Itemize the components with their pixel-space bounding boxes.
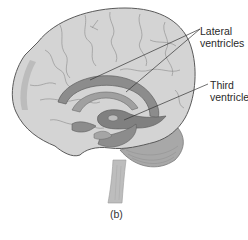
label-lateral-line2: ventricles xyxy=(200,37,244,49)
label-lateral-line1: Lateral xyxy=(200,25,244,37)
figure-caption: (b) xyxy=(110,208,123,220)
label-third-ventricle: Third ventricle xyxy=(210,79,248,103)
label-lateral-ventricles: Lateral ventricles xyxy=(200,25,244,49)
label-third-line2: ventricle xyxy=(210,91,248,103)
label-third-line1: Third xyxy=(210,79,248,91)
